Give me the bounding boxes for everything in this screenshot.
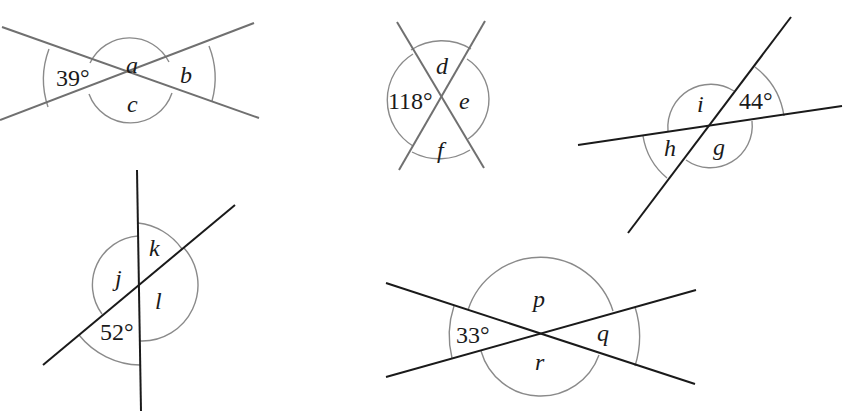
line-3b	[628, 17, 791, 233]
intersecting-lines-figure: 39° a b c 118° d e f 44° i h g 5	[0, 0, 854, 419]
label-a: a	[126, 52, 138, 78]
label-44: 44°	[739, 88, 773, 114]
label-r: r	[535, 349, 545, 375]
diagram-4: 52° k j l	[43, 170, 235, 411]
label-i: i	[697, 91, 704, 117]
arc-q	[635, 307, 640, 366]
label-b: b	[180, 62, 192, 88]
arc-b	[209, 46, 215, 101]
label-52: 52°	[100, 319, 134, 345]
arc-k	[138, 223, 182, 249]
arc-33	[449, 306, 454, 358]
diagram-5: 33° p q r	[386, 257, 696, 396]
diagram-3: 44° i h g	[578, 17, 842, 233]
label-p: p	[531, 286, 545, 312]
label-g: g	[713, 134, 725, 160]
label-33: 33°	[456, 322, 490, 348]
line-4a	[137, 170, 141, 411]
arc-l	[140, 248, 198, 341]
diagram-2: 118° d e f	[387, 21, 489, 170]
label-j: j	[112, 265, 122, 291]
diagram-1: 39° a b c	[0, 23, 259, 123]
label-l: l	[155, 288, 162, 314]
label-39: 39°	[56, 65, 90, 91]
label-q: q	[597, 320, 609, 346]
label-118: 118°	[388, 88, 433, 114]
arc-e	[467, 59, 489, 139]
label-c: c	[127, 91, 138, 117]
label-d: d	[436, 53, 449, 79]
label-k: k	[149, 235, 160, 261]
arc-d	[411, 41, 471, 50]
label-h: h	[664, 135, 676, 161]
arc-39	[44, 49, 49, 107]
label-e: e	[459, 88, 470, 114]
